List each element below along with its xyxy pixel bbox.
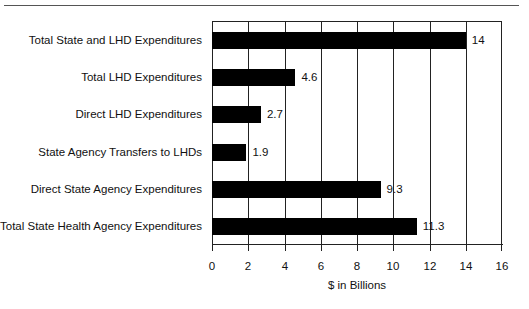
x-tick: [285, 244, 286, 251]
x-tick-label: 6: [318, 260, 324, 272]
bar: [212, 144, 246, 161]
category-label: Direct State Agency Expenditures: [31, 181, 202, 198]
gridline: [285, 21, 286, 245]
x-tick-label: 10: [387, 260, 400, 272]
x-tick-label: 4: [282, 260, 288, 272]
value-label: 1.9: [252, 144, 268, 161]
bar: [212, 32, 466, 49]
bar: [212, 218, 417, 235]
x-tick: [357, 244, 358, 251]
category-label: Direct LHD Expenditures: [75, 106, 202, 123]
value-label: 4.6: [301, 69, 317, 86]
x-tick-label: 0: [209, 260, 215, 272]
category-label: Total State Health Agency Expenditures: [0, 218, 202, 235]
value-label: 9.3: [387, 181, 403, 198]
value-label: 11.3: [423, 218, 445, 235]
x-tick: [430, 244, 431, 251]
top-rule: [4, 5, 519, 6]
bar: [212, 69, 295, 86]
bar: [212, 106, 261, 123]
gridline: [466, 21, 467, 245]
x-tick: [501, 244, 502, 251]
x-tick: [212, 244, 213, 251]
category-label: Total State and LHD Expenditures: [29, 32, 202, 49]
gridline: [430, 21, 431, 245]
category-label: State Agency Transfers to LHDs: [38, 144, 202, 161]
x-tick: [393, 244, 394, 251]
gridline: [248, 21, 249, 245]
value-label: 14: [472, 32, 485, 49]
value-label: 2.7: [267, 106, 283, 123]
x-tick: [321, 244, 322, 251]
gridline: [393, 21, 394, 245]
x-tick-label: 12: [424, 260, 437, 272]
x-tick: [248, 244, 249, 251]
x-tick: [466, 244, 467, 251]
x-tick-label: 2: [245, 260, 251, 272]
gridline: [357, 21, 358, 245]
gridline: [321, 21, 322, 245]
x-tick-label: 14: [460, 260, 473, 272]
category-label: Total LHD Expenditures: [81, 69, 202, 86]
x-axis-label: $ in Billions: [328, 279, 386, 291]
x-tick-label: 16: [496, 260, 509, 272]
x-tick-label: 8: [354, 260, 360, 272]
bar: [212, 181, 381, 198]
